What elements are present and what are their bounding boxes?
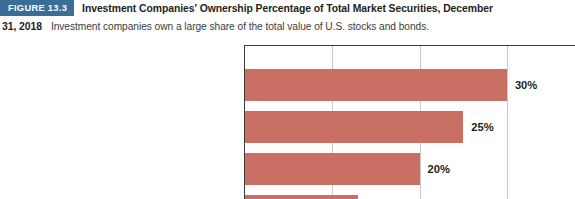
figure-number-badge: FIGURE 13.3 — [0, 0, 74, 16]
caption-line-2: 31, 2018Investment companies own a large… — [0, 16, 575, 34]
bar-value-label: 30% — [515, 79, 537, 91]
bar — [245, 195, 358, 199]
bar-value-label: 20% — [428, 163, 450, 175]
figure-title-line2: 31, 2018 — [2, 21, 42, 32]
bar-chart: 30%U.S. Stocks25%Municipal Bonds20%Corpo… — [0, 40, 575, 199]
bar — [245, 153, 420, 185]
caption-line-1: FIGURE 13.3Investment Companies' Ownersh… — [0, 0, 575, 16]
bar — [245, 69, 507, 101]
bar-row: 20%Corporate Bonds (U.S. and Internation… — [245, 153, 575, 185]
bar-row: 30%U.S. Stocks — [245, 69, 575, 101]
bar-row: 25%Municipal Bonds — [245, 111, 575, 143]
figure-title-line1: Investment Companies' Ownership Percenta… — [82, 1, 493, 17]
bar-row: 13%U.S. Treasury and Agency Securities — [245, 195, 575, 199]
bar — [245, 111, 463, 143]
figure-caption: FIGURE 13.3Investment Companies' Ownersh… — [0, 0, 575, 34]
figure-subtitle: Investment companies own a large share o… — [51, 21, 429, 32]
bar-value-label: 25% — [471, 121, 493, 133]
plot-area: 30%U.S. Stocks25%Municipal Bonds20%Corpo… — [244, 45, 575, 199]
